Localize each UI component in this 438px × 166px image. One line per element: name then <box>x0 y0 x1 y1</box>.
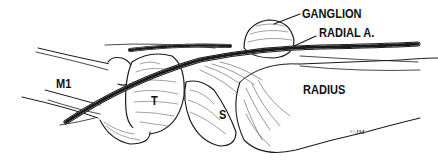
label-radial-artery: RADIAL A. <box>319 25 374 40</box>
label-ganglion: GANGLION <box>302 6 362 21</box>
label-scaphoid: S <box>219 107 226 122</box>
anatomical-illustration: GANGLION RADIAL A. M1 T S RADIUS ©JM <box>0 0 438 166</box>
label-radius: RADIUS <box>303 82 345 97</box>
label-trapezium: T <box>151 93 158 108</box>
artist-signature: ©JM <box>350 128 364 136</box>
label-m1: M1 <box>56 76 71 91</box>
